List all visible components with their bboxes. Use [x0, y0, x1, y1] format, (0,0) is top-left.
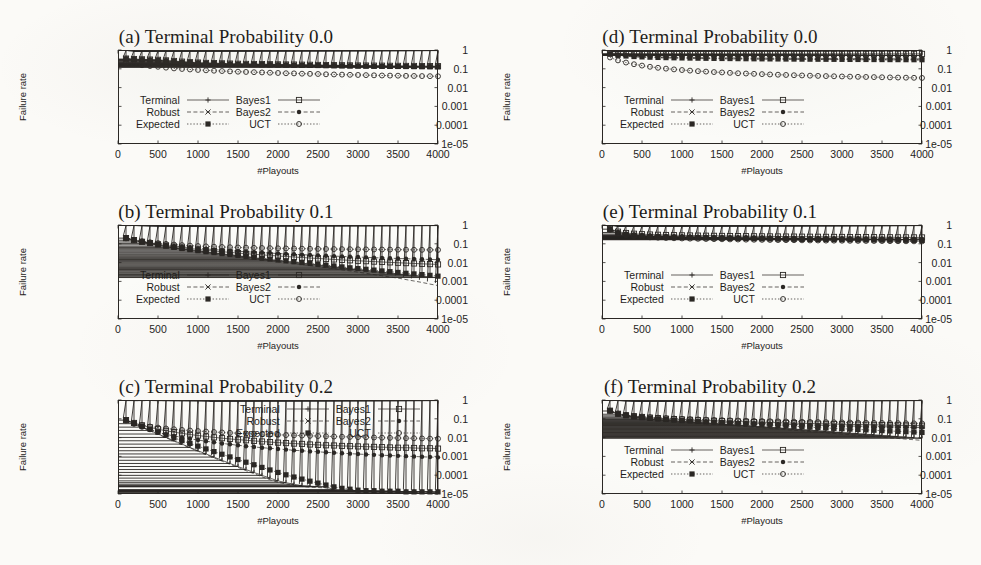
x-tick-label: 3000	[346, 323, 369, 335]
x-tick-label: 2500	[306, 498, 329, 510]
x-axis-label-f: #Playouts	[602, 515, 922, 526]
x-tick-label: 2000	[266, 148, 289, 160]
plot-area-f: Failure rate10.10.010.0010.00011e-050500…	[498, 400, 952, 540]
x-tick-label: 2000	[750, 498, 773, 510]
legend-key-bayes1	[276, 94, 322, 106]
legend-key-uct	[276, 293, 322, 305]
legend-label-robust: Robust	[236, 415, 280, 427]
x-tick-label: 500	[149, 148, 167, 160]
x-tick-label: 4000	[910, 148, 933, 160]
x-tick-label: 0	[599, 323, 605, 335]
x-tick-label: 500	[633, 323, 651, 335]
x-tick-label: 500	[149, 323, 167, 335]
x-tick-label: 2500	[790, 498, 813, 510]
x-tick-label: 1000	[186, 148, 209, 160]
x-axis-label-b: #Playouts	[118, 340, 438, 351]
legend-label-uct: UCT	[336, 427, 371, 439]
x-axis-label-d: #Playouts	[602, 165, 922, 176]
legend-key-bayes2	[276, 106, 322, 118]
legend-key-expected	[185, 118, 231, 130]
x-tick-label: 3000	[346, 148, 369, 160]
chart-panel-f: (f) Terminal Probability 0.2Failure rate…	[498, 376, 952, 540]
legend-key-bayes2	[276, 281, 322, 293]
legend-label-bayes1: Bayes1	[236, 269, 271, 281]
legend-label-expected: Expected	[620, 293, 664, 305]
legend-label-terminal: Terminal	[136, 269, 180, 281]
legend-e: TerminalBayes1RobustBayes2ExpectedUCT	[620, 269, 806, 305]
x-tick-label: 3500	[386, 498, 409, 510]
legend-label-bayes2: Bayes2	[720, 281, 755, 293]
plot-area-c: Failure rate10.10.010.0010.00011e-050500…	[14, 400, 468, 540]
y-axis-label-a: Failure rate	[17, 73, 28, 121]
plot-area-a: Failure rate10.10.010.0010.00011e-050500…	[14, 50, 468, 190]
legend-key-bayes2	[760, 106, 806, 118]
x-tick-label: 4000	[910, 323, 933, 335]
x-tick-label: 2000	[750, 148, 773, 160]
chart-panel-a: (a) Terminal Probability 0.0Failure rate…	[14, 26, 468, 190]
y-axis-label-b: Failure rate	[17, 248, 28, 296]
x-tick-label: 3000	[830, 148, 853, 160]
legend-label-terminal: Terminal	[236, 403, 280, 415]
legend-label-robust: Robust	[136, 106, 180, 118]
legend-key-uct	[760, 468, 806, 480]
x-tick-label: 1000	[186, 323, 209, 335]
chart-panel-e: (e) Terminal Probability 0.1Failure rate…	[498, 201, 952, 365]
x-axis-label-e: #Playouts	[602, 340, 922, 351]
legend-label-expected: Expected	[620, 468, 664, 480]
legend-b: TerminalBayes1RobustBayes2ExpectedUCT	[136, 269, 322, 305]
legend-key-terminal	[669, 269, 715, 281]
x-tick-label: 1000	[186, 498, 209, 510]
legend-label-bayes2: Bayes2	[720, 456, 755, 468]
legend-key-bayes2	[376, 415, 422, 427]
plot-area-e: Failure rate10.10.010.0010.00011e-050500…	[498, 225, 952, 365]
x-tick-label: 2500	[306, 148, 329, 160]
x-tick-label: 1500	[226, 323, 249, 335]
x-tick-label: 2500	[790, 148, 813, 160]
legend-key-terminal	[669, 444, 715, 456]
legend-a: TerminalBayes1RobustBayes2ExpectedUCT	[136, 94, 322, 130]
legend-key-bayes2	[760, 456, 806, 468]
x-tick-label: 3000	[830, 498, 853, 510]
legend-key-robust	[185, 281, 231, 293]
legend-label-expected: Expected	[236, 427, 280, 439]
legend-label-terminal: Terminal	[620, 444, 664, 456]
x-tick-label: 0	[115, 148, 121, 160]
legend-key-robust	[185, 106, 231, 118]
plot-area-b: Failure rate10.10.010.0010.00011e-050500…	[14, 225, 468, 365]
y-axis-label-d: Failure rate	[501, 73, 512, 121]
x-tick-label: 500	[149, 498, 167, 510]
y-axis-label-e: Failure rate	[501, 248, 512, 296]
legend-label-bayes2: Bayes2	[236, 281, 271, 293]
legend-key-expected	[669, 118, 715, 130]
legend-key-expected	[285, 427, 331, 439]
legend-label-uct: UCT	[236, 293, 271, 305]
legend-c: TerminalBayes1RobustBayes2ExpectedUCT	[236, 403, 422, 439]
chart-panel-b: (b) Terminal Probability 0.1Failure rate…	[14, 201, 468, 365]
y-axis-label-c: Failure rate	[17, 423, 28, 471]
legend-label-terminal: Terminal	[620, 94, 664, 106]
x-tick-label: 4000	[426, 498, 449, 510]
x-tick-label: 1500	[226, 148, 249, 160]
y-axis-label-f: Failure rate	[501, 423, 512, 471]
legend-label-expected: Expected	[136, 293, 180, 305]
legend-key-expected	[669, 293, 715, 305]
x-tick-label: 2000	[266, 498, 289, 510]
x-tick-label: 500	[633, 498, 651, 510]
legend-label-bayes1: Bayes1	[720, 269, 755, 281]
legend-label-terminal: Terminal	[136, 94, 180, 106]
chart-panel-c: (c) Terminal Probability 0.2Failure rate…	[14, 376, 468, 540]
legend-label-expected: Expected	[136, 118, 180, 130]
x-tick-label: 2000	[266, 323, 289, 335]
legend-key-uct	[760, 293, 806, 305]
x-tick-label: 1500	[710, 498, 733, 510]
legend-label-terminal: Terminal	[620, 269, 664, 281]
legend-label-bayes2: Bayes2	[236, 106, 271, 118]
legend-label-uct: UCT	[720, 468, 755, 480]
legend-key-bayes1	[760, 269, 806, 281]
legend-key-terminal	[285, 403, 331, 415]
legend-key-robust	[669, 106, 715, 118]
legend-label-robust: Robust	[620, 106, 664, 118]
legend-label-bayes2: Bayes2	[336, 415, 371, 427]
legend-label-bayes2: Bayes2	[720, 106, 755, 118]
legend-key-bayes1	[760, 444, 806, 456]
